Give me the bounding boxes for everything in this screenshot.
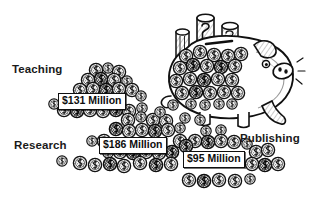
- pig-front-leg: [262, 101, 285, 124]
- value-callout-research: $186 Million: [99, 137, 167, 154]
- pig-eye: [262, 60, 269, 67]
- category-label-publishing: Publishing: [240, 133, 300, 145]
- category-label-research: Research: [14, 140, 67, 152]
- pig-hind-leg: [238, 112, 249, 128]
- value-callout-publishing: $95 Million: [183, 151, 245, 168]
- infographic-canvas: Teaching Research Publishing $131 Millio…: [0, 0, 319, 203]
- category-label-teaching: Teaching: [12, 64, 62, 76]
- value-callout-teaching: $131 Million: [58, 93, 126, 110]
- piggy-bank-icon: [161, 14, 305, 127]
- coin-illustration: [0, 0, 319, 203]
- sparkle-icon: [296, 58, 305, 84]
